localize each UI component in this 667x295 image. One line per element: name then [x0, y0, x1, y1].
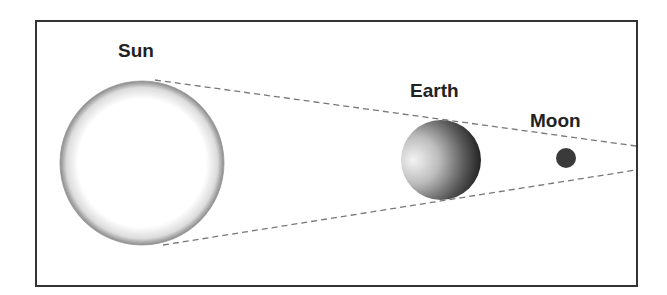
moon-label: Moon	[530, 110, 581, 132]
moon-circle	[556, 148, 576, 168]
eclipse-diagram	[0, 0, 667, 295]
earth-circle	[401, 120, 481, 200]
lower-tangent-line	[163, 170, 636, 245]
sun-label: Sun	[118, 40, 154, 62]
earth-label: Earth	[410, 80, 459, 102]
sun-circle	[60, 81, 224, 245]
